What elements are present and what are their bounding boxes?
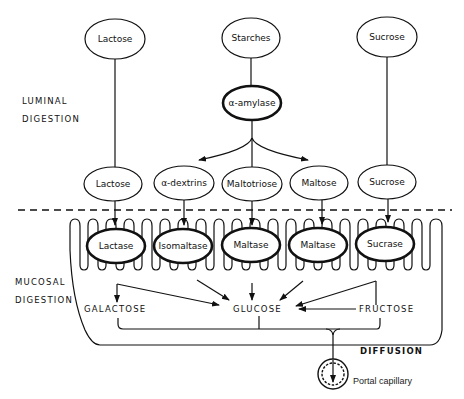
svg-text:Isomaltase: Isomaltase [159,241,208,251]
diffusion-label: DIFFUSION [360,346,423,356]
portal-capillary-icon [318,359,348,389]
source-starches-node: Starches [222,18,280,58]
amylase-branch-arrows [199,120,308,168]
intermediate-maltotriose-node: Maltotriose [222,167,282,201]
intermediate-lactose-node: Lactose [84,167,142,201]
svg-text:α-amylase: α-amylase [228,98,275,108]
fructose-product: FRUCTOSE [359,304,414,314]
svg-text:Sucrase: Sucrase [367,239,403,249]
svg-text:DIGESTION: DIGESTION [22,114,80,124]
luminal-digestion-label: LUMINAL DIGESTION [22,96,80,124]
alpha-amylase-enzyme-node: α-amylase [223,86,281,120]
svg-text:Maltose: Maltose [301,178,337,188]
svg-text:MUCOSAL: MUCOSAL [15,277,66,287]
svg-text:Maltase: Maltase [300,240,336,250]
svg-text:α-dextrins: α-dextrins [161,178,207,188]
svg-text:Sucrose: Sucrose [369,32,405,42]
intermediate-alpha-dextrins-node: α-dextrins [154,166,214,200]
enzyme-maltase-2-node: Maltase [289,228,347,262]
glucose-product: GLUCOSE [233,304,282,314]
mucosal-digestion-label: MUCOSAL DIGESTION [15,277,73,305]
intermediate-sucrose-node: Sucrose [358,165,416,199]
svg-text:Sucrose: Sucrose [369,177,405,187]
portal-capillary-label: Portal capillary [353,376,413,386]
svg-text:Starches: Starches [231,33,270,43]
svg-text:Maltotriose: Maltotriose [227,179,278,189]
enzyme-isomaltase-node: Isomaltase [154,229,212,263]
svg-text:Lactase: Lactase [99,241,134,251]
svg-text:DIGESTION: DIGESTION [15,295,73,305]
source-lactose-node: Lactose [85,19,145,59]
svg-text:Lactose: Lactose [98,34,133,44]
galactose-product: GALACTOSE [84,304,146,314]
intermediate-maltose-node: Maltose [290,166,348,200]
svg-text:LUMINAL: LUMINAL [22,96,68,106]
enzyme-lactase-node: Lactase [87,229,145,263]
carbohydrate-digestion-diagram: LUMINAL DIGESTION MUCOSAL DIGESTION Lact… [0,0,464,399]
enzyme-maltase-1-node: Maltase [222,228,280,262]
source-sucrose-node: Sucrose [357,17,417,57]
enzyme-sucrase-node: Sucrase [356,227,414,261]
svg-text:Maltase: Maltase [233,240,269,250]
svg-text:Lactose: Lactose [96,179,131,189]
